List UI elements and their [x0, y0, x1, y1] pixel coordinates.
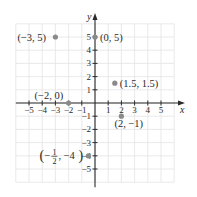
y-axis-arrow-icon	[93, 13, 98, 20]
data-point	[112, 81, 117, 86]
x-tick-label: 3	[132, 105, 137, 115]
x-tick-label: 2	[119, 105, 124, 115]
x-tick-label: −5	[24, 105, 34, 115]
paren-close: )	[78, 148, 83, 164]
data-point	[66, 100, 71, 105]
y-tick-label: 4	[87, 45, 92, 55]
y-tick-label: −1	[81, 111, 91, 121]
point-label: (−2, 0)	[35, 90, 64, 102]
point-label: (−12, −4)	[39, 148, 83, 166]
x-tick-label: 5	[159, 105, 164, 115]
point-label: (0, 5)	[100, 32, 123, 44]
x-tick-label: −4	[37, 105, 47, 115]
data-point	[92, 34, 97, 39]
y-tick-label: 1	[87, 85, 92, 95]
data-point	[53, 34, 58, 39]
x-tick-label: 1	[106, 105, 111, 115]
x-tick-label: −2	[64, 105, 74, 115]
coord-rest: , −4	[58, 150, 75, 161]
point-label: (−3, 5)	[17, 32, 46, 44]
minus-sign: −	[44, 150, 50, 161]
x-axis-label: x	[179, 104, 185, 115]
y-tick-label: −3	[81, 138, 91, 148]
data-point	[86, 153, 91, 158]
y-tick-label: 5	[87, 32, 92, 42]
x-tick-label: 4	[146, 105, 151, 115]
y-tick-label: 2	[87, 72, 92, 82]
point-label: (1.5, 1.5)	[120, 78, 159, 90]
point-label: (2, −1)	[114, 118, 143, 130]
x-tick-label: −3	[51, 105, 61, 115]
fraction-numerator: 1	[52, 148, 56, 157]
y-axis-label: y	[86, 11, 92, 22]
fraction-denominator: 2	[52, 157, 56, 166]
y-tick-label: −5	[81, 164, 91, 174]
y-tick-label: 3	[87, 58, 92, 68]
y-tick-label: −2	[81, 124, 91, 134]
coordinate-plane: xy −5−4−3−2−11234554321−1−2−3−4−5 (−3, 5…	[0, 0, 197, 197]
